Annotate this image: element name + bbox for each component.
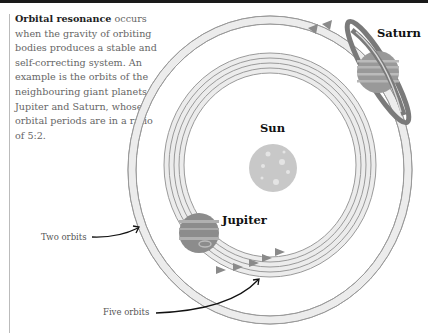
two-orbits-pointer [92,228,138,237]
arrow-icon [216,266,226,274]
orbit-diagram: Sun Jupiter Saturn Two orbits Five orbit… [0,0,428,333]
five-orbits-label: Five orbits [103,307,149,317]
sun [249,144,297,192]
two-orbits-label: Two orbits [41,232,87,242]
jupiter [179,213,219,253]
sun-label: Sun [260,121,286,135]
saturn-label: Saturn [377,26,421,40]
jupiter-label: Jupiter [221,213,268,227]
